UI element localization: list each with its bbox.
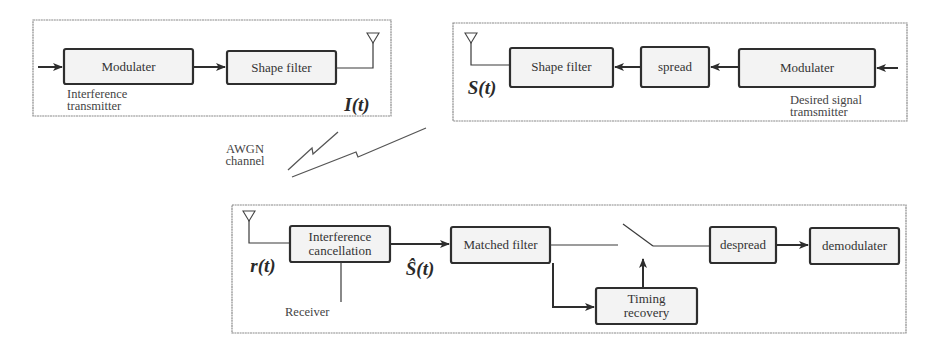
timing-recovery-block: Timing recovery: [596, 288, 697, 324]
demodulater-label: demodulater: [822, 238, 888, 253]
caption-line2: transmitter: [67, 99, 122, 113]
shape-filter-block: Shape filter: [227, 51, 336, 84]
modulater-label: Modulater: [780, 60, 835, 75]
modulater-block: Modulater: [739, 49, 875, 87]
interference-cancellation-label-line2: cancellation: [309, 243, 372, 258]
spread-label: spread: [658, 59, 692, 74]
shape-filter-label: Shape filter: [531, 59, 592, 74]
despread-label: despread: [720, 237, 767, 252]
channel-label-line2: channel: [226, 154, 265, 168]
matched-filter-block: Matched filter: [451, 227, 550, 263]
timing-recovery-label-line1: Timing: [628, 291, 666, 306]
receiver-caption: Receiver: [285, 305, 330, 319]
receiver-panel: r(t) Interference cancellation Receiver …: [232, 205, 906, 333]
despread-block: despread: [710, 227, 776, 263]
timing-recovery-label-line2: recovery: [624, 305, 670, 320]
modulater-label: Modulater: [101, 59, 156, 74]
signal-label-i: I(t): [343, 94, 369, 116]
modulater-block: Modulater: [64, 49, 193, 84]
signal-label-r: r(t): [250, 255, 275, 277]
spread-block: spread: [641, 47, 709, 87]
shape-filter-block: Shape filter: [510, 48, 613, 87]
interference-cancellation-label-line1: Interference: [309, 229, 372, 244]
demodulater-block: demodulater: [810, 228, 899, 264]
lightning-bolt-icon: [288, 132, 338, 170]
desired-transmitter-panel: Shape filter spread Modulater Desired si…: [453, 23, 907, 121]
signal-label-s-hat: Ŝ(t): [406, 258, 435, 280]
awgn-channel: AWGN channel: [226, 128, 426, 177]
signal-label-s: S(t): [468, 77, 497, 99]
system-block-diagram: Modulater Shape filter Interference tran…: [0, 0, 945, 351]
caption-line2: tramsmitter: [790, 105, 848, 119]
matched-filter-label: Matched filter: [464, 237, 539, 252]
shape-filter-label: Shape filter: [251, 60, 312, 75]
interference-transmitter-panel: Modulater Shape filter Interference tran…: [33, 20, 391, 116]
interference-cancellation-block: Interference cancellation: [290, 226, 390, 262]
